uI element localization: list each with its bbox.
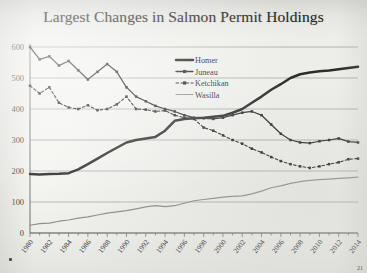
series-marker-ketchikan <box>280 160 283 163</box>
series-marker-juneau <box>251 110 254 113</box>
svg-text:0: 0 <box>20 229 24 238</box>
series-marker-juneau <box>125 86 128 89</box>
series-marker-juneau <box>29 46 32 49</box>
series-marker-juneau <box>77 69 80 72</box>
series-marker-juneau <box>58 64 61 67</box>
page-number: 21 <box>357 265 363 271</box>
svg-text:1980: 1980 <box>19 237 35 254</box>
series-marker-juneau <box>231 114 234 117</box>
series-marker-ketchikan <box>58 102 61 105</box>
series-line-juneau <box>30 47 358 143</box>
series-marker-juneau <box>135 95 138 98</box>
svg-text:1986: 1986 <box>77 237 93 254</box>
svg-text:1992: 1992 <box>135 237 151 254</box>
svg-text:1984: 1984 <box>57 237 73 254</box>
series-marker-juneau <box>173 110 176 113</box>
svg-text:500: 500 <box>11 74 24 83</box>
scanned-page: Largest Changes in Salmon Permit Holding… <box>0 0 367 273</box>
svg-text:100: 100 <box>11 198 24 207</box>
series-line-homer <box>30 67 358 175</box>
series-marker-ketchikan <box>202 126 205 129</box>
series-marker-juneau <box>289 139 292 142</box>
series-marker-ketchikan <box>260 151 263 154</box>
series-marker-ketchikan <box>347 158 350 161</box>
series-marker-ketchikan <box>145 108 148 111</box>
svg-text:2004: 2004 <box>250 237 266 254</box>
series-marker-juneau <box>222 116 225 119</box>
series-marker-juneau <box>116 71 119 74</box>
series-marker-juneau <box>280 133 283 136</box>
series-marker-ketchikan <box>116 103 119 106</box>
series-marker-juneau <box>337 137 340 140</box>
series-marker-juneau <box>145 100 148 103</box>
series-marker-juneau <box>154 105 157 108</box>
svg-text:2002: 2002 <box>231 237 247 254</box>
legend-marker-juneau <box>183 70 186 73</box>
series-marker-juneau <box>357 141 360 144</box>
series-marker-ketchikan <box>270 156 273 159</box>
series-marker-ketchikan <box>106 108 109 111</box>
svg-text:600: 600 <box>11 43 24 52</box>
series-marker-ketchikan <box>96 109 99 112</box>
svg-text:1996: 1996 <box>173 237 189 254</box>
svg-text:400: 400 <box>11 105 24 114</box>
series-marker-ketchikan <box>29 85 32 88</box>
series-marker-ketchikan <box>135 108 138 111</box>
series-marker-ketchikan <box>309 167 312 170</box>
series-marker-ketchikan <box>183 116 186 119</box>
series-marker-ketchikan <box>164 109 167 112</box>
series-marker-ketchikan <box>328 163 331 166</box>
svg-text:1988: 1988 <box>96 237 112 254</box>
svg-text:2006: 2006 <box>270 237 286 254</box>
series-marker-juneau <box>328 139 331 142</box>
svg-text:300: 300 <box>11 136 24 145</box>
series-marker-juneau <box>241 111 244 114</box>
series-marker-juneau <box>260 114 263 117</box>
svg-text:1994: 1994 <box>154 237 170 254</box>
series-marker-ketchikan <box>125 95 128 98</box>
series-marker-ketchikan <box>222 134 225 137</box>
svg-text:2010: 2010 <box>308 237 324 254</box>
series-marker-juneau <box>87 78 90 81</box>
series-marker-juneau <box>318 140 321 143</box>
y-axis-tick-labels: 0100200300400500600 <box>11 43 24 238</box>
series-marker-ketchikan <box>299 165 302 168</box>
series-marker-ketchikan <box>212 129 215 132</box>
scan-artifact-dot <box>9 258 12 261</box>
series-marker-ketchikan <box>231 139 234 142</box>
svg-text:1998: 1998 <box>193 237 209 254</box>
chart-canvas: 0100200300400500600 19801982198419861988… <box>0 0 367 273</box>
series-marker-ketchikan <box>173 114 176 117</box>
series-marker-ketchikan <box>241 142 244 145</box>
series-marker-ketchikan <box>38 92 41 95</box>
series-marker-juneau <box>347 140 350 143</box>
svg-text:1990: 1990 <box>115 237 131 254</box>
gridlines <box>30 47 358 233</box>
svg-text:1982: 1982 <box>38 237 54 254</box>
series-marker-ketchikan <box>77 108 80 111</box>
legend-marker-ketchikan <box>183 81 186 84</box>
x-axis-ticks <box>30 233 358 237</box>
series-marker-juneau <box>202 117 205 120</box>
series-marker-ketchikan <box>357 157 360 160</box>
series-marker-juneau <box>183 114 186 117</box>
line-chart: 0100200300400500600 19801982198419861988… <box>0 0 367 273</box>
series-marker-ketchikan <box>67 106 70 109</box>
series-marker-juneau <box>106 63 109 66</box>
svg-text:2008: 2008 <box>289 237 305 254</box>
series-marker-ketchikan <box>337 161 340 164</box>
series-marker-juneau <box>309 142 312 145</box>
series-marker-ketchikan <box>193 118 196 121</box>
series-marker-ketchikan <box>251 147 254 150</box>
series-marker-ketchikan <box>48 86 51 89</box>
series-marker-ketchikan <box>154 110 157 113</box>
legend-label-wasilla: Wasilla <box>195 91 220 100</box>
svg-text:2012: 2012 <box>328 237 344 254</box>
series-line-ketchikan <box>30 86 358 168</box>
svg-text:2014: 2014 <box>347 237 363 254</box>
series-marker-ketchikan <box>318 165 321 168</box>
series-marker-juneau <box>67 60 70 63</box>
series-marker-juneau <box>299 141 302 144</box>
legend-label-homer: Homer <box>195 56 218 65</box>
svg-text:200: 200 <box>11 167 24 176</box>
